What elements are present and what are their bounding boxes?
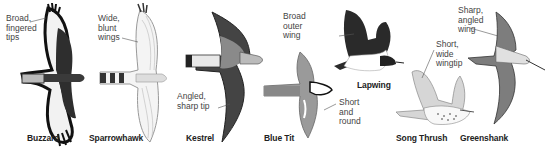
annotation-buzzard: Broad, fingered tips: [6, 14, 37, 43]
label-sparrowhawk: Sparrowhawk: [89, 133, 143, 143]
label-song-thrush: Song Thrush: [396, 133, 447, 143]
label-lapwing: Lapwing: [357, 80, 391, 90]
label-buzzard: Buzzard: [27, 133, 59, 143]
lapwing-illustration: [334, 10, 404, 71]
annotation-song-thrush: Short, wide wingtip: [436, 40, 462, 69]
annotation-sparrowhawk: Wide, blunt wings: [98, 14, 120, 43]
song-thrush-illustration: [396, 71, 474, 125]
annotation-blue-tit: Short and round: [339, 98, 361, 127]
annotation-lapwing: Broad outer wing: [283, 12, 306, 41]
kestrel-illustration: [186, 12, 263, 142]
wing-shapes-diagram: Broad, fingered tips Wide, blunt wings A…: [0, 0, 549, 149]
label-greenshank: Greenshank: [460, 133, 508, 143]
annotation-greenshank: Sharp, angled wing: [458, 6, 484, 35]
blue-tit-illustration: [264, 52, 332, 138]
label-kestrel: Kestrel: [186, 133, 214, 143]
label-blue-tit: Blue Tit: [264, 133, 294, 143]
annotation-kestrel: Angled, sharp tip: [177, 92, 210, 111]
